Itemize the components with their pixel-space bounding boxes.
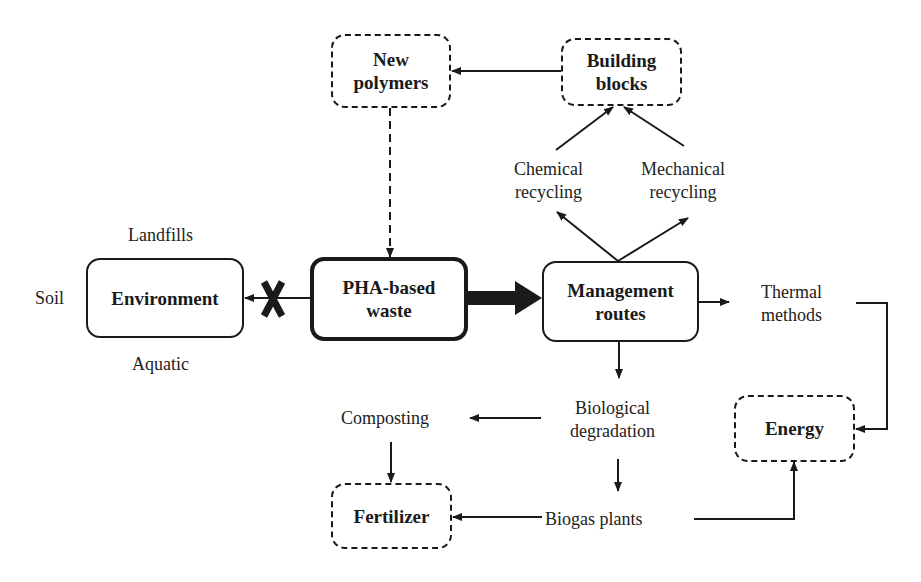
node-label: waste [343, 299, 436, 322]
label-line: methods [761, 304, 822, 327]
label-line: degradation [570, 420, 655, 443]
node-fertilizer: Fertilizer [331, 483, 452, 549]
edge-mechanical-to-building [624, 107, 684, 146]
label-biological-degradation: Biological degradation [570, 397, 655, 443]
node-label: routes [567, 302, 674, 325]
label-composting: Composting [341, 407, 429, 430]
node-label: blocks [587, 72, 657, 95]
label-line: Mechanical [641, 158, 725, 181]
label-line: Biological [570, 397, 655, 420]
label-thermal-methods: Thermal methods [761, 281, 822, 327]
node-environment: Environment [86, 258, 244, 338]
label-aquatic: Aquatic [132, 353, 189, 376]
node-label: Fertilizer [354, 505, 430, 528]
node-pha-based-waste: PHA-based waste [310, 257, 468, 341]
node-label: Environment [111, 287, 218, 310]
label-line: recycling [514, 181, 583, 204]
node-new-polymers: New polymers [331, 34, 451, 108]
node-label: polymers [354, 71, 429, 94]
node-label: New [354, 48, 429, 71]
label-chemical-recycling: Chemical recycling [514, 158, 583, 204]
label-landfills: Landfills [128, 224, 193, 247]
node-label: Management [567, 279, 674, 302]
edge-biogas-to-energy [694, 462, 794, 519]
label-soil: Soil [35, 287, 64, 310]
label-line: recycling [641, 181, 725, 204]
label-mechanical-recycling: Mechanical recycling [641, 158, 725, 204]
edge-mgmt-to-chemical [557, 212, 618, 261]
label-line: Chemical [514, 158, 583, 181]
edge-chemical-to-building [556, 107, 613, 150]
node-label: Energy [765, 417, 824, 440]
label-line: Thermal [761, 281, 822, 304]
node-label: Building [587, 49, 657, 72]
thick-arrow-pha-to-management [467, 281, 542, 315]
node-label: PHA-based [343, 276, 436, 299]
edge-thermal-to-energy [856, 303, 887, 429]
node-building-blocks: Building blocks [561, 38, 682, 106]
node-management-routes: Management routes [542, 261, 699, 342]
label-biogas-plants: Biogas plants [545, 508, 643, 531]
node-energy: Energy [734, 395, 855, 462]
edge-mgmt-to-mechanical [618, 218, 688, 261]
